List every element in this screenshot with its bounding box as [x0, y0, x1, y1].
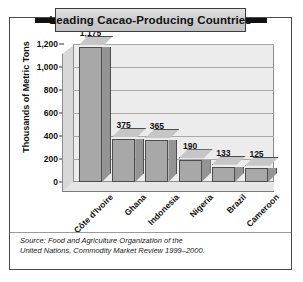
source-note: Source: Food and Agriculture Organizatio…	[20, 236, 270, 256]
bar: 190	[179, 160, 202, 182]
x-tick-label: Cameroon	[244, 192, 281, 229]
bar-side-face	[102, 47, 111, 182]
y-tick-label: 1,000	[37, 62, 58, 72]
bar: 365	[145, 140, 168, 182]
bar-front-face	[179, 160, 202, 182]
bar: 125	[245, 168, 268, 182]
y-tick-label: 400	[44, 131, 58, 141]
bar-value-label: 375	[117, 120, 131, 130]
bar-value-label: 190	[183, 141, 197, 151]
bar: 375	[112, 139, 135, 182]
bar-front-face	[145, 140, 168, 182]
y-tick-label: 800	[44, 85, 58, 95]
bar-value-label: 125	[249, 149, 263, 159]
x-tick-label: Ghana	[122, 192, 148, 218]
bar: 1,175	[79, 47, 102, 182]
bar-front-face	[79, 47, 102, 182]
chart-figure: Leading Cacao-Producing Countries Thousa…	[0, 0, 303, 282]
x-tick-label: Brazil	[224, 192, 247, 215]
bar-value-label: 133	[216, 148, 230, 158]
y-tick-label: 1,200	[37, 39, 58, 49]
plot-floor-back-edge	[73, 181, 274, 182]
plot-area: 1,175375365190133125	[62, 44, 274, 192]
x-tick-label: Côte d'Ivoire	[72, 192, 115, 235]
bar: 133	[212, 167, 235, 182]
chart-title-plate: Leading Cacao-Producing Countries	[55, 8, 246, 32]
bar-front-face	[212, 167, 235, 182]
bar-front-face	[112, 139, 135, 182]
x-axis-tick-labels: Côte d'IvoireGhanaIndonesiaNigeriaBrazil…	[62, 192, 282, 236]
source-line-2: United Nations, Commodity Market Review …	[20, 246, 270, 256]
chart-title: Leading Cacao-Producing Countries	[49, 14, 252, 26]
y-tick-label: 0	[53, 177, 58, 187]
source-divider	[10, 232, 291, 233]
x-tick-label: Nigeria	[187, 192, 214, 219]
y-tick-label: 200	[44, 154, 58, 164]
bar-front-face	[245, 168, 268, 182]
y-axis-tick-labels: 02004006008001,0001,200	[22, 44, 58, 192]
bar-value-label: 365	[150, 121, 164, 131]
x-tick-label: Indonesia	[146, 192, 181, 227]
source-line-1: Source: Food and Agriculture Organizatio…	[20, 236, 270, 246]
y-tick-label: 600	[44, 108, 58, 118]
